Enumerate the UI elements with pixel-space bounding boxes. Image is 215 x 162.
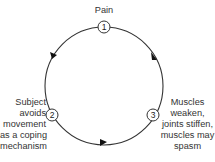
- node-1-number: 1: [102, 22, 107, 32]
- node-3-number: 3: [151, 110, 156, 120]
- node-2: 2: [46, 109, 58, 121]
- node-1-label: Pain: [90, 5, 118, 16]
- arrow-1-to-2-icon: [50, 52, 57, 59]
- node-3: 3: [147, 109, 159, 121]
- node-2-label-line: as a coping: [0, 130, 46, 141]
- node-2-label-line: Subject: [0, 97, 46, 108]
- node-2-label-line: movement: [0, 119, 46, 130]
- node-1: 1: [98, 21, 110, 33]
- node-3-label-line: weaken,: [160, 108, 215, 119]
- node-2-label-line: avoids: [0, 108, 46, 119]
- node-2-number: 2: [50, 110, 55, 120]
- node-3-label: Muscles weaken, joints stiffen, muscles …: [160, 97, 215, 152]
- node-2-label-line: mechanism: [0, 141, 46, 152]
- pain-cycle-diagram: 1 2 3 Pain Subject avoids movement as a …: [0, 0, 215, 162]
- node-3-label-line: Muscles: [160, 97, 215, 108]
- node-2-label: Subject avoids movement as a coping mech…: [0, 97, 46, 152]
- node-3-label-line: joints stiffen,: [160, 119, 215, 130]
- node-3-label-line: spasm: [160, 141, 215, 152]
- node-3-label-line: muscles may: [160, 130, 215, 141]
- cycle-ring: [45, 27, 163, 145]
